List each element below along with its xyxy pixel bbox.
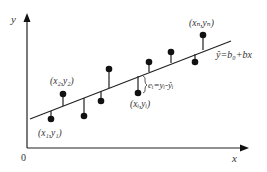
y-axis-arrow-icon [24,13,31,22]
data-point [146,59,153,72]
origin-label: 0 [21,152,26,163]
x-axis-label: x [231,152,237,164]
data-point-n [200,32,207,50]
regression-diagram: y x 0 ŷ=b₀+bx [0,0,267,172]
data-point [48,111,55,122]
x-axis-arrow-icon [240,145,249,152]
point-label-n: (xₙ,yₙ) [189,18,214,29]
data-point [98,91,105,104]
data-point [81,98,88,119]
data-point [60,91,67,106]
residual-brace-icon [143,76,147,93]
point-label-1: (x₁,y₁) [38,128,62,139]
data-point-i [135,76,142,96]
regression-equation: ŷ=b₀+bx [215,49,252,60]
y-axis-label: y [10,13,16,25]
point-label-2: (x₂,y₂) [50,76,74,87]
axes: y x 0 [10,13,249,164]
data-point [106,66,113,88]
data-point [168,49,175,63]
residual-label: eᵢ=yᵢ-ŷᵢ [148,80,174,90]
point-label-i: (xᵢ,yᵢ) [130,99,150,110]
